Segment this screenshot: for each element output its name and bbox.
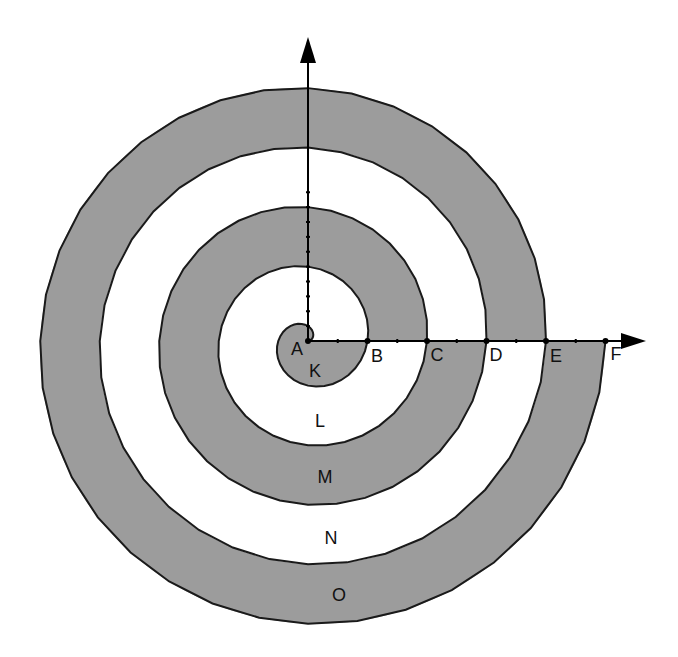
- region-label-k: K: [309, 362, 321, 380]
- point-label-b: B: [371, 347, 383, 365]
- point-c: [424, 338, 430, 344]
- region-label-m: M: [318, 468, 333, 486]
- region-label-n: N: [325, 529, 338, 547]
- point-label-d: D: [490, 346, 503, 364]
- point-b: [365, 338, 371, 344]
- point-a: [305, 338, 311, 344]
- point-label-f: F: [611, 345, 622, 363]
- y-axis-arrow-icon: [300, 37, 316, 63]
- point-label-e: E: [550, 347, 562, 365]
- point-label-c: C: [431, 346, 444, 364]
- spiral-regions: [40, 88, 605, 624]
- region-label-l: L: [315, 412, 325, 430]
- x-axis-arrow-icon: [621, 333, 646, 349]
- region-label-o: O: [332, 586, 346, 604]
- point-d: [484, 338, 490, 344]
- spiral-diagram: [0, 0, 678, 657]
- point-label-a: A: [291, 340, 303, 358]
- point-e: [543, 338, 549, 344]
- point-f: [603, 338, 609, 344]
